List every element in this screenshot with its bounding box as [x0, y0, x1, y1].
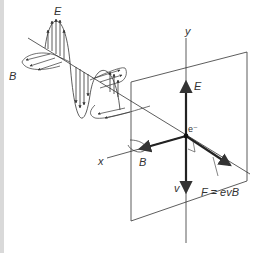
- force-leader-line: [213, 157, 218, 176]
- force-vector: [186, 136, 230, 165]
- em-wave-diagram: E B y E e⁻ x B v F = evB: [0, 0, 254, 253]
- electron-label: e⁻: [188, 124, 198, 134]
- b-field-vector: [140, 136, 186, 149]
- y-axis-label: y: [184, 25, 192, 37]
- wave-b-label: B: [9, 70, 16, 82]
- right-angle-marker: [188, 141, 195, 152]
- velocity-label: v: [174, 182, 181, 194]
- e-field-wave: [45, 19, 120, 118]
- force-label: F = evB: [201, 186, 239, 198]
- field-e-label: E: [194, 80, 202, 92]
- electron-dot: [184, 134, 189, 139]
- propagation-axis: [28, 38, 250, 174]
- field-b-label: B: [139, 156, 146, 168]
- x-axis-label: x: [97, 155, 104, 167]
- wave-e-label: E: [54, 5, 62, 17]
